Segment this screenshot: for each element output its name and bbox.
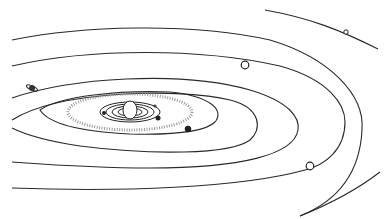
planet-venus-icon bbox=[153, 104, 156, 107]
planet-jupiter-icon bbox=[241, 61, 249, 69]
orbit-neptune-lower bbox=[300, 172, 380, 216]
sun-icon bbox=[123, 101, 137, 119]
planet-mercury-icon bbox=[102, 111, 106, 115]
orbit-pluto bbox=[265, 10, 378, 49]
orbit-neptune bbox=[12, 28, 362, 216]
planet-mars-icon bbox=[185, 126, 191, 132]
solar-system-diagram bbox=[0, 0, 388, 219]
orbit-uranus bbox=[12, 53, 345, 190]
planet-uranus-icon bbox=[306, 162, 314, 170]
planet-earth-icon bbox=[156, 116, 161, 121]
planet-saturn-icon bbox=[26, 84, 39, 93]
planet-neptune-icon bbox=[344, 30, 348, 34]
